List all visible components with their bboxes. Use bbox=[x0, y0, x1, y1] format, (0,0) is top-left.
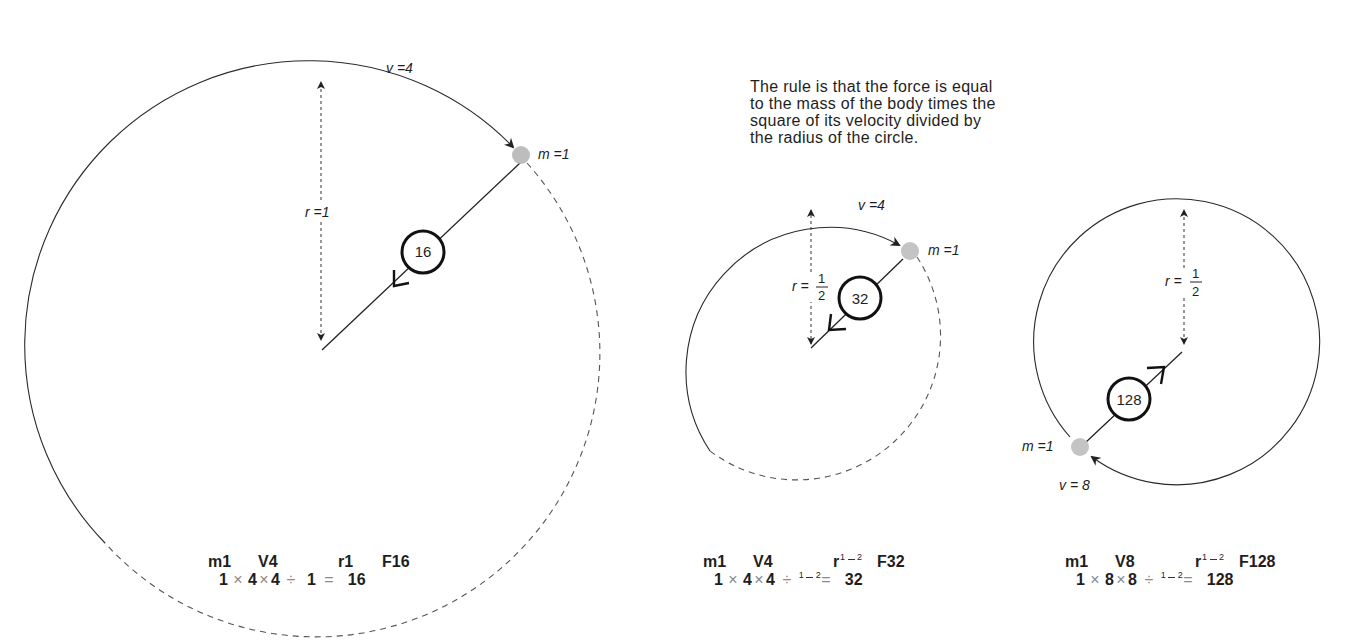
radius-fraction: 1 2 bbox=[799, 571, 813, 589]
formula-calc: 1 × 8 × 8 ÷ 1 2 = 128 bbox=[1065, 571, 1275, 589]
rule-caption: The rule is that the force is equal to t… bbox=[750, 78, 1070, 146]
formula-medium-v4: m1 V4 r 1 2 F32 1 × 4 × 4 ÷ 1 2 = 32 bbox=[703, 553, 905, 589]
radius-fraction: 1 2 bbox=[1202, 553, 1239, 571]
formula-header: m1 V4 r1 F16 bbox=[208, 553, 410, 571]
medium-orbit-diagram-v4: 32 v =4 m =1 r = 1 2 bbox=[686, 197, 960, 480]
large-orbit-solid-arc bbox=[25, 61, 513, 543]
medium2-radius-label: r = bbox=[1165, 273, 1182, 289]
medium1-orbit-solid-arc bbox=[686, 227, 899, 451]
caption-line: The rule is that the force is equal bbox=[750, 78, 1070, 95]
medium2-radius-den: 2 bbox=[1192, 284, 1199, 299]
caption-line: to the mass of the body times the bbox=[750, 95, 1070, 112]
medium1-radius-label: r = bbox=[792, 278, 809, 294]
large-force-value: 16 bbox=[415, 243, 432, 260]
medium2-force-value: 128 bbox=[1116, 391, 1141, 408]
formula-large: m1 V4 r1 F16 1 × 4 × 4 ÷ 1 = 16 bbox=[208, 553, 410, 589]
medium1-radius-den: 2 bbox=[818, 288, 825, 303]
large-radius-label: r =1 bbox=[305, 204, 330, 220]
radius-fraction: 1 2 bbox=[840, 553, 877, 571]
medium2-mass-ball bbox=[1071, 438, 1089, 456]
formula-header: m1 V8 r 1 2 F128 bbox=[1065, 553, 1275, 571]
medium1-mass-ball bbox=[901, 242, 919, 260]
caption-line: the radius of the circle. bbox=[750, 129, 1070, 146]
medium-orbit-diagram-v8: 128 m =1 v = 8 r = 1 2 bbox=[1022, 199, 1320, 493]
medium2-force-arrow-icon bbox=[1147, 367, 1164, 384]
medium1-mass-label: m =1 bbox=[928, 242, 960, 258]
formula-calc: 1 × 4 × 4 ÷ 1 = 16 bbox=[208, 571, 410, 589]
medium1-radius-num: 1 bbox=[818, 271, 825, 286]
large-force-arrow-icon bbox=[394, 270, 409, 286]
radius-fraction: 1 2 bbox=[1161, 571, 1175, 589]
formula-calc: 1 × 4 × 4 ÷ 1 2 = 32 bbox=[703, 571, 905, 589]
medium1-velocity-label: v =4 bbox=[858, 197, 885, 213]
caption-line: square of its velocity divided by bbox=[750, 112, 1070, 129]
centripetal-force-diagram: 16 v =4 m =1 r =1 32 v =4 m =1 r = 1 2 1 bbox=[0, 0, 1347, 644]
medium1-force-value: 32 bbox=[852, 290, 869, 307]
large-mass-label: m =1 bbox=[538, 146, 570, 162]
medium2-velocity-label: v = 8 bbox=[1059, 477, 1090, 493]
medium2-mass-label: m =1 bbox=[1022, 438, 1054, 454]
large-velocity-label: v =4 bbox=[386, 60, 413, 76]
large-mass-ball bbox=[512, 146, 530, 164]
formula-header: m1 V4 r 1 2 F32 bbox=[703, 553, 905, 571]
formula-medium-v8: m1 V8 r 1 2 F128 1 × 8 × 8 ÷ 1 2 = 128 bbox=[1065, 553, 1275, 589]
medium2-radius-num: 1 bbox=[1192, 266, 1199, 281]
large-orbit-diagram: 16 v =4 m =1 r =1 bbox=[25, 60, 600, 637]
